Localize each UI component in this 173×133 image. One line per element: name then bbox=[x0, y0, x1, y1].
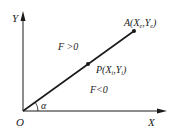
region-above-label: F >0 bbox=[57, 41, 78, 52]
angle-arc bbox=[35, 102, 38, 111]
point-a-close: ) bbox=[152, 17, 157, 29]
x-axis-arrow-icon bbox=[157, 109, 167, 114]
point-p-label-main: P(X bbox=[95, 64, 112, 76]
x-axis-label: X bbox=[147, 116, 156, 128]
point-a bbox=[132, 29, 136, 33]
y-axis-arrow-icon bbox=[21, 11, 26, 21]
region-below-label: F<0 bbox=[89, 84, 108, 95]
point-a-label-main: A(X bbox=[123, 17, 140, 29]
angle-label: α bbox=[41, 100, 47, 111]
point-p-close: ) bbox=[122, 64, 127, 76]
interpolation-diagram: Y X O α A(Xe,Ye) P(Xi,Yi) F >0 F<0 bbox=[0, 0, 173, 133]
point-p bbox=[86, 62, 90, 66]
point-p-label: P(Xi,Yi) bbox=[95, 64, 127, 76]
y-axis-label: Y bbox=[12, 12, 20, 24]
point-a-label: A(Xe,Ye) bbox=[123, 17, 157, 29]
origin-label: O bbox=[16, 116, 24, 128]
